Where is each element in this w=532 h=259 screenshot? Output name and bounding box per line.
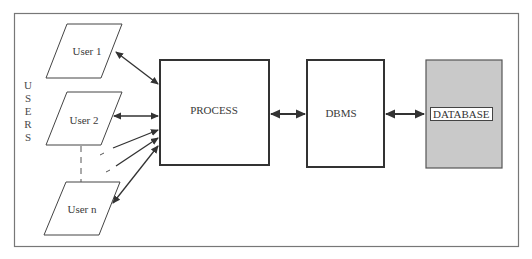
dash-more-2	[106, 170, 110, 172]
dash-more-1	[100, 153, 104, 155]
user-2-label: User 2	[69, 114, 98, 126]
process-label: PROCESS	[190, 104, 238, 116]
users-side-label: U S E R S	[22, 79, 34, 144]
database-label: DATABASE	[430, 107, 493, 121]
users-letter: E	[22, 105, 34, 118]
arrow-more-1-process	[113, 130, 158, 148]
users-letter: S	[22, 92, 34, 105]
user-n-label: User n	[67, 203, 96, 215]
arrow-user1-process	[116, 52, 158, 84]
diagram-canvas	[0, 0, 532, 259]
dbms-label: DBMS	[325, 107, 356, 119]
arrow-usern-process	[113, 146, 158, 203]
users-letter: U	[22, 79, 34, 92]
users-letter: R	[22, 118, 34, 131]
arrow-more-2-process	[116, 138, 158, 166]
users-letter: S	[22, 131, 34, 144]
user-1-label: User 1	[72, 45, 101, 57]
